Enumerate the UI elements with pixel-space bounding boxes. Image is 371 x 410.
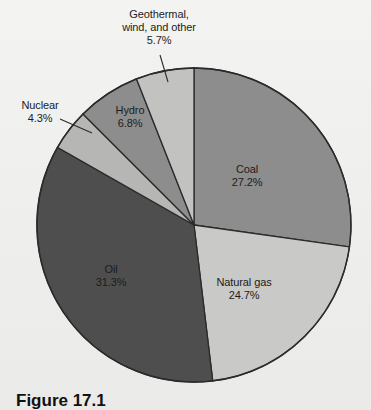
pie-label-oil-name: Oil: [80, 263, 142, 276]
pie-value-hydro: 6.8%: [99, 117, 161, 130]
pie-label-coal-name: Coal: [216, 163, 278, 176]
pie-label-geothermal: Geothermal, wind, and other 5.7%: [91, 8, 227, 47]
pie-label-coal: Coal 27.2%: [216, 163, 278, 189]
pie-value-geothermal: 5.7%: [91, 34, 227, 47]
pie-label-nuclear-name: Nuclear: [2, 99, 78, 112]
pie-value-nuclear: 4.3%: [2, 112, 78, 125]
figure-container: Geothermal, wind, and other 5.7% Nuclear…: [0, 0, 371, 410]
pie-label-geothermal-line2: wind, and other: [91, 21, 227, 34]
pie-slice-coal[interactable]: [194, 68, 351, 247]
pie-label-natural-gas-name: Natural gas: [192, 276, 296, 289]
pie-value-oil: 31.3%: [80, 276, 142, 289]
pie-value-natural-gas: 24.7%: [192, 289, 296, 302]
pie-label-nuclear: Nuclear 4.3%: [2, 99, 78, 125]
pie-label-oil: Oil 31.3%: [80, 263, 142, 289]
pie-chart: [0, 0, 371, 410]
pie-value-coal: 27.2%: [216, 176, 278, 189]
pie-label-hydro: Hydro 6.8%: [99, 104, 161, 130]
figure-caption: Figure 17.1: [16, 394, 106, 407]
pie-label-geothermal-line1: Geothermal,: [91, 8, 227, 21]
pie-label-natural-gas: Natural gas 24.7%: [192, 276, 296, 302]
pie-label-hydro-name: Hydro: [99, 104, 161, 117]
pie-slice-natural-gas[interactable]: [194, 225, 349, 381]
